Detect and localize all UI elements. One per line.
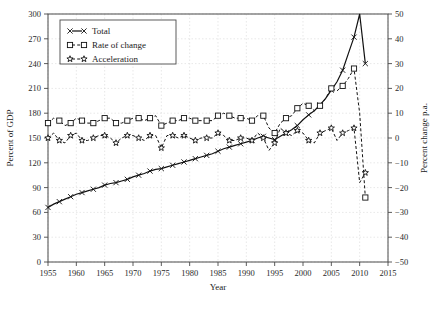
marker-acceleration [272,140,278,146]
y2-tick-label: 50 [395,9,404,19]
marker-rate-of-change [57,118,62,123]
x-tick-label: 2010 [351,268,368,278]
legend-label-2: Acceleration [92,54,138,64]
y-tick-label: 90 [33,183,42,193]
marker-rate-of-change [238,116,243,121]
chart-container: 1955196019651970197519801985199019952000… [0,0,440,318]
y2-tick-label: −40 [395,232,408,242]
marker-acceleration [158,145,164,151]
marker-acceleration [102,132,108,138]
legend-label-1: Rate of change [92,40,146,50]
marker-rate-of-change [147,116,152,121]
marker-rate-of-change [79,118,84,123]
marker-rate-of-change [113,121,118,126]
marker-rate-of-change [363,195,368,200]
y2-tick-label: 20 [395,83,404,93]
marker-total [68,194,73,199]
marker-acceleration [328,125,334,131]
y-tick-label: 180 [28,108,41,118]
legend-label-0: Total [92,26,111,36]
marker-acceleration [68,132,74,138]
marker-acceleration [204,135,210,141]
marker-rate-of-change [351,66,356,71]
y-tick-label: 270 [28,34,41,44]
x-axis-title: Year [210,282,227,292]
y2-tick-label: 10 [395,108,404,118]
marker-rate-of-change [125,118,130,123]
marker-rate-of-change [170,118,175,123]
marker-rate-of-change [215,113,220,118]
y2-tick-label: 30 [395,59,404,69]
marker-total [306,112,311,117]
x-tick-label: 2000 [295,268,312,278]
marker-rate-of-change [249,118,254,123]
y2-tick-label: 0 [395,133,399,143]
marker-rate-of-change [272,130,277,135]
y-tick-label: 30 [33,232,42,242]
legend-marker-square [81,42,86,47]
marker-acceleration [181,132,187,138]
marker-acceleration [260,135,266,141]
y2-tick-label: 40 [395,34,404,44]
y-tick-label: 0 [37,257,41,267]
y2-tick-label: −50 [395,257,408,267]
marker-acceleration [136,135,142,141]
x-tick-label: 1975 [153,268,170,278]
y2-axis-title: Percent change p.a. [419,103,429,173]
marker-rate-of-change [306,103,311,108]
marker-rate-of-change [91,121,96,126]
marker-total [215,149,220,154]
marker-rate-of-change [317,103,322,108]
marker-rate-of-change [283,116,288,121]
x-tick-label: 1985 [210,268,227,278]
marker-rate-of-change [193,118,198,123]
x-tick-label: 1970 [125,268,142,278]
x-tick-label: 1960 [68,268,85,278]
marker-rate-of-change [159,123,164,128]
y-tick-label: 150 [28,133,41,143]
x-tick-label: 2005 [323,268,340,278]
y-axis-title: Percent of GDP [5,110,15,167]
x-tick-label: 2015 [380,268,397,278]
marker-rate-of-change [181,116,186,121]
marker-rate-of-change [261,113,266,118]
marker-acceleration [90,135,96,141]
marker-rate-of-change [204,118,209,123]
y-tick-label: 240 [28,59,41,69]
y2-tick-label: −30 [395,207,408,217]
marker-total [57,199,62,204]
y-tick-label: 300 [28,9,41,19]
marker-rate-of-change [329,86,334,91]
y2-tick-label: −10 [395,158,408,168]
x-tick-label: 1965 [96,268,113,278]
x-tick-label: 1955 [40,268,57,278]
marker-acceleration [56,137,62,143]
marker-rate-of-change [45,121,50,126]
y-tick-label: 120 [28,158,41,168]
x-tick-label: 1995 [266,268,283,278]
y-tick-label: 60 [33,207,42,217]
marker-acceleration [351,125,357,131]
x-tick-label: 1980 [181,268,198,278]
marker-rate-of-change [340,83,345,88]
marker-acceleration [170,132,176,138]
marker-acceleration [124,132,130,138]
marker-acceleration [192,137,198,143]
marker-acceleration [317,130,323,136]
marker-rate-of-change [227,113,232,118]
y2-tick-label: −20 [395,183,408,193]
line-chart: 1955196019651970197519801985199019952000… [0,0,440,318]
marker-acceleration [238,135,244,141]
x-tick-label: 1990 [238,268,255,278]
marker-rate-of-change [68,121,73,126]
marker-rate-of-change [102,116,107,121]
marker-acceleration [340,130,346,136]
marker-acceleration [45,135,51,141]
legend-marker-square [67,42,72,47]
marker-rate-of-change [295,106,300,111]
y-tick-label: 210 [28,83,41,93]
marker-rate-of-change [136,116,141,121]
